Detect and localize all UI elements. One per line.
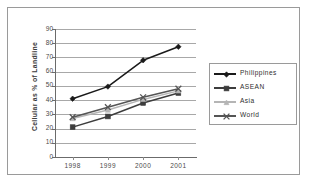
y-tick-label: 10 [37, 139, 53, 146]
legend-item-asia[interactable]: Asia [213, 95, 297, 109]
x-tick-mark [143, 157, 144, 160]
y-tick-label: 40 [37, 97, 53, 104]
legend-item-philippines[interactable]: Philippines [213, 67, 297, 81]
legend-marker-icon [221, 83, 232, 94]
y-tick-label: 90 [37, 26, 53, 33]
gridline [55, 129, 196, 130]
legend-item-world[interactable]: World [213, 109, 297, 123]
plot-area [55, 29, 196, 157]
data-point-marker [224, 72, 229, 77]
legend-label: Philippines [240, 69, 277, 76]
data-point-marker [224, 100, 229, 105]
gridline [55, 43, 196, 44]
y-tick-label: 80 [37, 40, 53, 47]
x-tick-mark [108, 157, 109, 160]
legend-marker-icon [221, 97, 232, 108]
y-tick-label: 0 [37, 154, 53, 161]
legend-marker-icon [221, 69, 232, 80]
y-tick-label: 70 [37, 54, 53, 61]
y-tick-mark [52, 29, 55, 30]
data-point-marker [224, 114, 230, 120]
legend-label: World [240, 111, 259, 118]
y-axis-line [55, 29, 56, 158]
y-tick-label: 60 [37, 68, 53, 75]
gridline [55, 143, 196, 144]
legend-item-asean[interactable]: ASEAN [213, 81, 297, 95]
y-axis-title-container: Cellular as % of Landline [18, 28, 32, 148]
legend-label: Asia [240, 97, 255, 104]
x-tick-label: 1998 [58, 162, 88, 169]
chart-frame: Cellular as % of Landline 01020304050607… [7, 7, 300, 175]
data-point-marker [224, 86, 229, 91]
y-tick-mark [52, 86, 55, 87]
x-tick-label: 2000 [128, 162, 158, 169]
gridline [55, 72, 196, 73]
y-tick-label: 20 [37, 125, 53, 132]
x-tick-mark [178, 157, 179, 160]
gridline [55, 114, 196, 115]
y-tick-label: 50 [37, 82, 53, 89]
y-axis-tick-labels: 0102030405060708090 [32, 8, 53, 176]
x-tick-mark [73, 157, 74, 160]
y-tick-label: 30 [37, 111, 53, 118]
y-tick-mark [52, 100, 55, 101]
legend-marker-icon [221, 111, 232, 122]
y-tick-mark [52, 143, 55, 144]
y-tick-mark [52, 72, 55, 73]
y-tick-mark [52, 157, 55, 158]
x-tick-label: 1999 [93, 162, 123, 169]
chart-legend: PhilippinesASEANAsiaWorld [209, 63, 297, 125]
y-tick-mark [52, 43, 55, 44]
gridline [55, 29, 196, 30]
gridline [55, 86, 196, 87]
gridline [55, 100, 196, 101]
gridline [55, 57, 196, 58]
x-tick-label: 2001 [163, 162, 193, 169]
y-tick-mark [52, 114, 55, 115]
y-tick-mark [52, 129, 55, 130]
legend-label: ASEAN [240, 83, 265, 90]
x-axis-line [55, 157, 197, 158]
y-tick-mark [52, 57, 55, 58]
